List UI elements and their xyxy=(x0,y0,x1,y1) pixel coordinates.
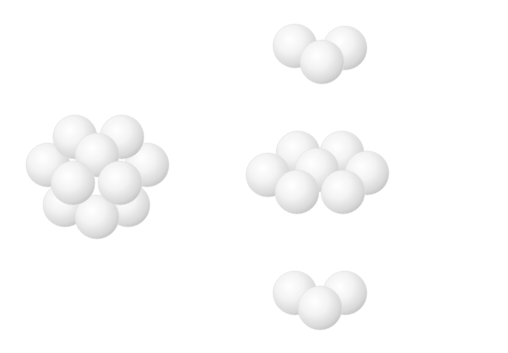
sphere xyxy=(298,286,342,330)
sphere xyxy=(300,40,344,84)
sphere-packing-diagram xyxy=(0,0,508,353)
assembled-cluster xyxy=(26,115,169,239)
middle-layer xyxy=(246,131,389,214)
sphere xyxy=(51,161,95,205)
top-layer xyxy=(273,24,367,84)
sphere xyxy=(275,170,319,214)
sphere xyxy=(321,170,365,214)
sphere xyxy=(98,161,142,205)
bottom-layer xyxy=(273,271,367,330)
